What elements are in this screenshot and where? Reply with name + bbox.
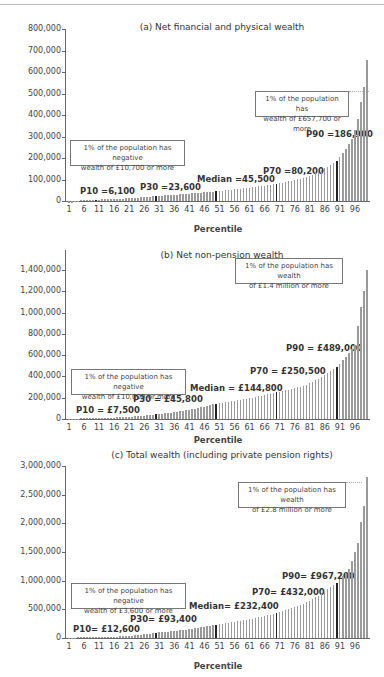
bar-percentile <box>149 634 151 638</box>
bar-percentile <box>104 637 106 638</box>
bar-percentile <box>300 605 302 638</box>
y-tick <box>62 552 65 553</box>
bar-percentile <box>357 543 359 638</box>
x-tick-label: 56 <box>227 642 243 651</box>
chart-total-wealth: (c) Total wealth (including private pens… <box>0 0 384 677</box>
bar-percentile <box>170 631 172 638</box>
y-tick <box>62 523 65 524</box>
bar-percentile <box>258 617 260 638</box>
y-tick-label: 2,500,000 <box>1 490 61 499</box>
bar-percentile <box>252 619 254 638</box>
y-tick <box>62 609 65 610</box>
bar-percentile <box>95 637 97 638</box>
bar-percentile <box>303 604 305 638</box>
bar-percentile <box>203 627 205 638</box>
x-tick-label: 26 <box>136 642 152 651</box>
x-tick-label: 41 <box>181 642 197 651</box>
bar-percentile <box>267 615 269 638</box>
bar-percentile <box>92 637 94 638</box>
bar-percentile <box>318 596 320 638</box>
bar-percentile <box>89 637 91 638</box>
box-line: of £2.8 million or more <box>242 505 342 515</box>
bar-percentile <box>309 601 311 638</box>
bar-percentile <box>312 599 314 638</box>
bar-percentile <box>237 621 239 638</box>
box-line: 1% of the population has negative <box>75 586 182 606</box>
x-axis <box>65 638 370 639</box>
bar-percentile <box>315 597 317 638</box>
y-tick-label: 3,000,000 <box>1 461 61 470</box>
bar-percentile <box>324 592 326 638</box>
x-tick-label: 11 <box>91 642 107 651</box>
x-tick-label: 36 <box>166 642 182 651</box>
bar-percentile <box>333 585 335 638</box>
bar-percentile <box>330 587 332 638</box>
bar-percentile <box>345 573 347 638</box>
bar-percentile <box>270 615 272 638</box>
x-tick-label: 16 <box>106 642 122 651</box>
bar-percentile <box>285 610 287 638</box>
annotation-p90: P90= £967,200 <box>282 571 355 581</box>
bar-percentile <box>246 620 248 638</box>
bar-percentile <box>279 612 281 638</box>
bar-percentile <box>173 631 175 638</box>
x-tick-label: 66 <box>257 642 273 651</box>
bar-percentile <box>131 636 133 638</box>
bar-percentile <box>146 634 148 638</box>
bar-percentile <box>101 637 103 638</box>
bar-percentile <box>294 607 296 638</box>
bar-percentile <box>125 636 127 638</box>
y-tick <box>62 495 65 496</box>
x-tick-label: 21 <box>121 642 137 651</box>
bar-percentile <box>249 619 251 638</box>
x-tick-label: 86 <box>317 642 333 651</box>
bar-percentile <box>77 637 79 638</box>
x-tick-label: 6 <box>76 642 92 651</box>
y-tick-label: 1,000,000 <box>1 576 61 585</box>
y-tick-label: 1,500,000 <box>1 547 61 556</box>
bar-percentile <box>354 552 356 638</box>
bar-percentile <box>137 635 139 638</box>
bar-percentile <box>197 628 199 638</box>
bar-percentile <box>219 624 221 638</box>
y-tick-label: 0 <box>1 633 61 642</box>
bar-percentile <box>297 606 299 638</box>
x-tick-label: 61 <box>242 642 258 651</box>
chart-title: (c) Total wealth (including private pens… <box>60 450 384 460</box>
bar-percentile <box>68 638 70 639</box>
bar-percentile <box>74 638 76 639</box>
bar-percentile <box>234 622 236 638</box>
x-tick-label: 91 <box>332 642 348 651</box>
bar-percentile <box>185 630 187 638</box>
x-tick-label: 1 <box>61 642 77 651</box>
bar-percentile <box>119 636 121 638</box>
bar-percentile <box>206 626 208 638</box>
bar-percentile <box>176 631 178 638</box>
bar-percentile <box>228 623 230 638</box>
bar-percentile <box>86 637 88 638</box>
bar-percentile <box>161 632 163 638</box>
annotation-median: Median= £232,400 <box>189 601 279 611</box>
box-line: wealth of £3,600 or more <box>75 606 182 616</box>
bar-percentile <box>366 477 368 638</box>
bar-percentile <box>122 636 124 638</box>
bar-percentile <box>167 632 169 638</box>
bar-percentile <box>140 635 142 638</box>
bar-percentile <box>191 629 193 638</box>
bar-percentile <box>282 611 284 638</box>
bar-percentile <box>158 632 160 638</box>
bar-percentile <box>212 625 214 638</box>
bar-percentile <box>200 627 202 638</box>
x-tick-label: 81 <box>302 642 318 651</box>
bar-percentile-70-highlight <box>276 613 278 638</box>
bar-percentile <box>360 522 362 638</box>
y-tick <box>62 638 65 639</box>
bar-percentile <box>98 637 100 638</box>
leader-line <box>346 482 362 483</box>
annotation-p10: P10= £12,600 <box>73 624 140 634</box>
bar-percentile <box>179 630 181 638</box>
bar-percentile <box>363 506 365 638</box>
box-line: 1% of the population has wealth <box>242 485 342 505</box>
bar-percentile <box>342 576 344 638</box>
annotation-box-negative: 1% of the population has negative wealth… <box>71 583 186 609</box>
